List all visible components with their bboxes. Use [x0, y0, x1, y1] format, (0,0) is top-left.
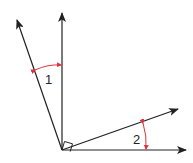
angle-2-label: 2 [133, 132, 140, 147]
upper-right-ray [62, 109, 178, 150]
left-ray [17, 20, 62, 150]
angles-diagram: 1 2 [0, 0, 193, 163]
angle-2-arc [143, 123, 146, 149]
angle-1-arc [35, 65, 61, 70]
angle-1-label: 1 [45, 72, 52, 87]
